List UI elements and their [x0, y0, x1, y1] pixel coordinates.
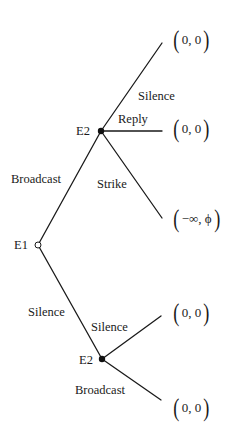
open-paren: ( — [173, 299, 179, 327]
close-paren: ) — [203, 115, 209, 143]
open-paren: ( — [173, 205, 179, 233]
payoff-value: 0, 0 — [181, 115, 203, 143]
edge-root-silence — [38, 245, 102, 359]
lower-node-filled-icon — [99, 356, 105, 362]
payoff-upper-strike: ( −∞, ϕ ) — [172, 205, 221, 233]
close-paren: ) — [214, 205, 220, 233]
payoff-upper-silence: ( 0, 0 ) — [172, 26, 211, 54]
payoff-upper-reply: ( 0, 0 ) — [172, 115, 211, 143]
payoff-value: −∞, ϕ — [181, 205, 213, 233]
edge-label-root-silence: Silence — [28, 305, 65, 319]
root-node-label: E1 — [14, 238, 28, 252]
payoff-value: 0, 0 — [181, 394, 203, 422]
payoff-value: 0, 0 — [181, 26, 203, 54]
payoff-lower-silence: ( 0, 0 ) — [172, 299, 211, 327]
upper-node-label: E2 — [76, 124, 90, 138]
close-paren: ) — [203, 299, 209, 327]
payoff-lower-broadcast: ( 0, 0 ) — [172, 394, 211, 422]
edge-root-broadcast — [38, 131, 101, 245]
edge-label-root-broadcast: Broadcast — [11, 172, 61, 186]
root-node-hollow-icon — [35, 242, 41, 248]
edge-label-upper-reply: Reply — [118, 112, 148, 126]
edge-label-lower-silence: Silence — [91, 320, 128, 334]
upper-node-filled-icon — [98, 128, 104, 134]
edge-label-upper-strike: Strike — [97, 177, 127, 191]
open-paren: ( — [173, 394, 179, 422]
payoff-value: 0, 0 — [181, 299, 203, 327]
close-paren: ) — [203, 26, 209, 54]
edge-label-lower-broadcast: Broadcast — [75, 383, 125, 397]
open-paren: ( — [173, 115, 179, 143]
edge-upper-strike — [101, 131, 162, 218]
open-paren: ( — [173, 26, 179, 54]
close-paren: ) — [203, 394, 209, 422]
edge-label-upper-silence: Silence — [138, 89, 175, 103]
lower-node-label: E2 — [79, 353, 93, 367]
